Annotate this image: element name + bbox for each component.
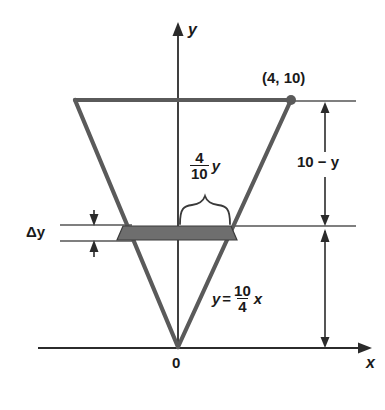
- math-diagram: (4, 10) 10 − y Δy 4 10 y y = 10 4 x y x …: [0, 0, 385, 410]
- y-axis-label: y: [188, 22, 197, 38]
- equation-slope-fraction: 10 4: [233, 283, 252, 315]
- line-equation-label: y = 10 4 x: [212, 283, 262, 315]
- y-axis-arrowhead: [173, 22, 184, 36]
- strip-width-label: 4 10 y: [190, 150, 220, 182]
- triangle-left-side: [75, 100, 178, 347]
- equation-lhs: y: [212, 291, 220, 306]
- vertex-point-dot: [286, 95, 296, 105]
- equation-numerator: 10: [233, 283, 252, 298]
- x-axis-arrowhead: [358, 343, 372, 354]
- dim-arrowhead-dy-up: [90, 240, 99, 252]
- origin-label: 0: [172, 355, 180, 370]
- dim-arrowhead-10minusy-up: [321, 102, 330, 113]
- shaded-strip: [117, 226, 237, 240]
- strip-thickness-label: Δy: [26, 224, 45, 239]
- diagram-canvas: [0, 0, 385, 410]
- strip-width-fraction: 4 10: [190, 150, 209, 182]
- dim-arrowhead-10minusy-down: [321, 215, 330, 226]
- equation-equals: =: [222, 291, 231, 306]
- height-above-strip-label: 10 − y: [297, 154, 339, 169]
- dim-arrowhead-y-up: [321, 229, 330, 242]
- strip-width-numerator: 4: [194, 150, 204, 165]
- vertex-point-label: (4, 10): [262, 70, 305, 85]
- dim-arrowhead-y-down: [321, 337, 330, 348]
- strip-width-denominator: 10: [190, 165, 209, 181]
- strip-width-variable: y: [212, 158, 220, 173]
- curly-brace-strip-width: [180, 196, 230, 224]
- equation-variable: x: [254, 291, 262, 306]
- dim-arrowhead-dy-down: [90, 214, 99, 226]
- equation-denominator: 4: [237, 298, 247, 314]
- x-axis-label: x: [366, 355, 375, 371]
